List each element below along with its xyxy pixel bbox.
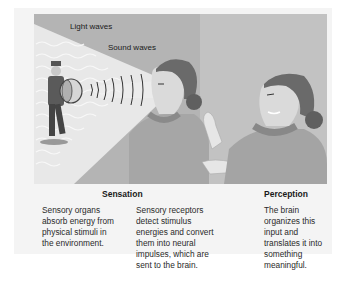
sensation-heading: Sensation bbox=[102, 189, 143, 199]
perception-heading: Perception bbox=[264, 189, 308, 199]
sound-waves-label: Sound waves bbox=[108, 43, 156, 52]
perception-description: The brain organizes this input and trans… bbox=[264, 205, 322, 271]
sensation-description-receptors: Sensory receptors detect stimulus energi… bbox=[136, 205, 214, 271]
illustration bbox=[34, 14, 327, 184]
sensation-perception-scene bbox=[34, 14, 327, 184]
sensation-description-organs: Sensory organs absorb energy from physic… bbox=[42, 205, 114, 249]
light-waves-label: Light waves bbox=[70, 22, 112, 31]
